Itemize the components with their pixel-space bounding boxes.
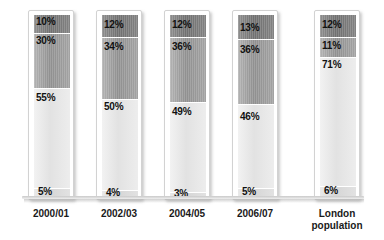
value-label-segment-2: 11% [322,41,341,51]
value-label-segment-1: 12% [104,20,123,30]
value-label-segment-1: 10% [36,17,55,27]
value-label-segment-3: 46% [240,112,259,122]
axis-baseline-shadow [24,199,364,203]
bar-column-2004-05[interactable]: 12% 36% 49% 3% [164,10,226,200]
value-label-segment-2: 34% [104,42,123,52]
bar-segment-3 [102,99,138,190]
stacked-bar [238,15,274,197]
bar-column-2006-07[interactable]: 13% 36% 46% 5% [232,10,294,200]
plot-area: 10% 30% 55% 5% 12% 34% 50% 4% [0,0,384,240]
bar-segment-3 [320,57,356,186]
value-label-segment-4: 6% [324,186,338,196]
x-axis-label-london-population: London population [294,208,380,232]
value-label-segment-1: 13% [240,23,259,33]
value-label-segment-3: 49% [172,107,191,117]
value-label-segment-3: 50% [104,102,123,112]
bar-column-2002-03[interactable]: 12% 34% 50% 4% [96,10,158,200]
bar-frame [314,10,360,200]
stacked-bar-chart: 10% 30% 55% 5% 12% 34% 50% 4% [0,0,384,240]
bar-frame [232,10,278,200]
x-axis-label-2006-07: 2006/07 [212,208,298,220]
value-label-segment-3: 55% [36,93,55,103]
value-label-segment-2: 36% [172,42,191,52]
value-label-segment-3: 71% [322,60,341,70]
value-label-segment-2: 30% [36,36,55,46]
bar-column-london-population[interactable]: 12% 11% 71% 6% [314,10,376,200]
bar-column-2000-01[interactable]: 10% 30% 55% 5% [28,10,90,200]
value-label-segment-1: 12% [322,20,341,30]
value-label-segment-2: 36% [240,45,259,55]
value-label-segment-1: 12% [172,20,191,30]
bar-frame [164,10,210,200]
